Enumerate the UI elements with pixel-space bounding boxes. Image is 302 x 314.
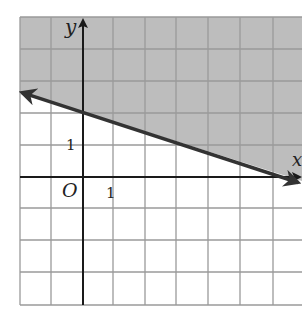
origin-label: O — [62, 181, 78, 200]
x-tick-label: 1 — [106, 186, 116, 201]
y-axis-label: y — [65, 17, 76, 37]
x-axis-label: x — [292, 151, 302, 169]
y-tick-label: 1 — [66, 138, 76, 153]
shaded-region — [20, 17, 302, 181]
coordinate-grid — [0, 0, 302, 314]
